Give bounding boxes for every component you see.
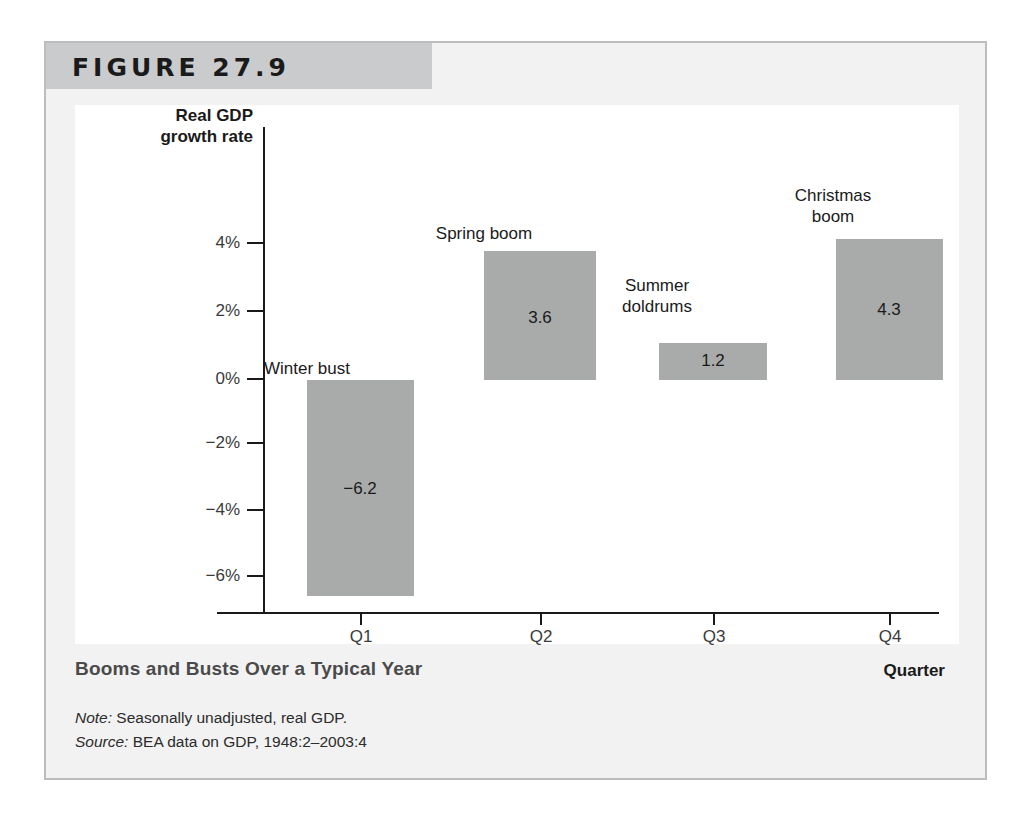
bar-value-q3: 1.2	[653, 351, 773, 371]
bar-annotation-q1: Winter bust	[222, 358, 392, 379]
figure-card: FIGURE 27.9 Real GDP growth rate 4% 2%	[44, 41, 987, 780]
x-tick-mark-q1	[360, 612, 362, 625]
y-tick-label-4: 4%	[180, 233, 240, 253]
y-tick-label-neg2: −2%	[180, 433, 240, 453]
y-axis-title-line1: Real GDP	[103, 105, 253, 126]
x-tick-label-q2: Q2	[496, 627, 586, 647]
chart-plot-area: Real GDP growth rate 4% 2% 0% −2%	[75, 105, 959, 644]
bar-annotation-q2-line1: Spring boom	[399, 223, 569, 244]
y-tick-mark-neg4	[247, 509, 264, 511]
x-tick-label-q4: Q4	[845, 627, 935, 647]
bar-annotation-q4-line2: boom	[748, 206, 918, 227]
x-tick-label-q1: Q1	[316, 627, 406, 647]
bar-value-q4: 4.3	[829, 300, 949, 320]
y-tick-mark-2	[247, 310, 264, 312]
bar-annotation-q4: Christmas boom	[748, 185, 918, 227]
figure-note: Note: Seasonally unadjusted, real GDP.	[75, 709, 347, 727]
x-tick-mark-q2	[540, 612, 542, 625]
y-tick-mark-4	[247, 242, 264, 244]
bar-annotation-q4-line1: Christmas	[748, 185, 918, 206]
x-axis-line	[217, 612, 939, 614]
chart-panel: Real GDP growth rate 4% 2% 0% −2%	[75, 105, 959, 644]
y-tick-label-neg4: −4%	[180, 500, 240, 520]
figure-note-text: Seasonally unadjusted, real GDP.	[112, 709, 347, 726]
bar-annotation-q3-line1: Summer	[572, 275, 742, 296]
bar-annotation-q2: Spring boom	[399, 223, 569, 244]
y-tick-label-2: 2%	[180, 301, 240, 321]
x-tick-mark-q3	[713, 612, 715, 625]
y-tick-label-neg6: −6%	[180, 566, 240, 586]
y-axis-title: Real GDP growth rate	[103, 105, 253, 147]
figure-number-band: FIGURE 27.9	[46, 43, 432, 89]
bar-annotation-q1-line1: Winter bust	[222, 358, 392, 379]
bar-value-q1: −6.2	[300, 479, 420, 499]
x-tick-label-q3: Q3	[669, 627, 759, 647]
figure-note-label: Note:	[75, 709, 112, 726]
y-tick-mark-neg2	[247, 442, 264, 444]
x-tick-mark-q4	[889, 612, 891, 625]
figure-caption-title: Booms and Busts Over a Typical Year	[75, 658, 422, 680]
y-axis-title-line2: growth rate	[103, 126, 253, 147]
y-tick-mark-neg6	[247, 575, 264, 577]
x-axis-title: Quarter	[835, 661, 945, 681]
figure-source: Source: BEA data on GDP, 1948:2–2003:4	[75, 733, 367, 751]
figure-number-label: FIGURE 27.9	[72, 53, 290, 82]
bar-annotation-q3-line2: doldrums	[572, 296, 742, 317]
figure-source-label: Source:	[75, 733, 128, 750]
bar-annotation-q3: Summer doldrums	[572, 275, 742, 317]
figure-source-text: BEA data on GDP, 1948:2–2003:4	[128, 733, 366, 750]
